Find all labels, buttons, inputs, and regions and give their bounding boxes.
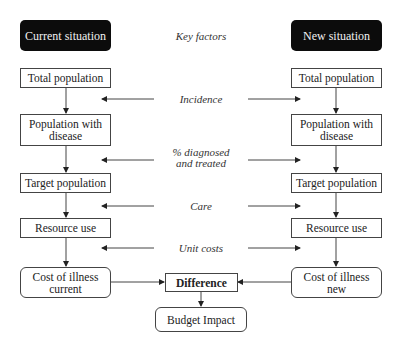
key-factor-care: Care [141, 201, 261, 212]
key-factor-unit-costs: Unit costs [141, 243, 261, 254]
box-label: Target population [296, 177, 377, 189]
budget-impact-box: Budget Impact [155, 307, 247, 332]
current-situation-header: Current situation [20, 20, 111, 51]
box-label-line: new [327, 283, 346, 295]
box-label: Target population [25, 177, 106, 189]
box-label: Resource use [35, 222, 96, 234]
new-total-population-box: Total population [291, 68, 382, 88]
box-label: Total population [28, 72, 104, 84]
difference-box: Difference [165, 273, 238, 292]
current-cost-of-illness-box: Cost of illness current [20, 267, 111, 298]
budget-impact-diagram: Current situation Key factors New situat… [0, 0, 400, 345]
new-situation-header: New situation [291, 20, 382, 51]
box-label: Resource use [306, 222, 367, 234]
box-label-line: disease [49, 130, 82, 142]
box-label-line: current [49, 283, 82, 295]
current-target-population-box: Target population [20, 173, 111, 193]
box-label-line: disease [320, 130, 353, 142]
key-factor-incidence: Incidence [141, 94, 261, 105]
key-factor-line: Unit costs [179, 242, 223, 254]
current-resource-use-box: Resource use [20, 218, 111, 238]
new-resource-use-box: Resource use [291, 218, 382, 238]
key-factors-heading: Key factors [141, 31, 261, 42]
new-population-with-disease-box: Population with disease [291, 114, 382, 146]
key-factor-line: and treated [176, 157, 226, 169]
key-factor-line: Care [190, 200, 212, 212]
new-cost-of-illness-box: Cost of illness new [291, 267, 382, 298]
current-population-with-disease-box: Population with disease [20, 114, 111, 146]
new-target-population-box: Target population [291, 173, 382, 193]
key-factor-line: Incidence [180, 93, 223, 105]
box-label-line: Cost of illness [304, 271, 370, 283]
box-label-line: Cost of illness [33, 271, 99, 283]
current-total-population-box: Total population [20, 68, 111, 88]
figure-caption-clipped [6, 341, 386, 345]
box-label: Total population [299, 72, 375, 84]
box-label-line: Population with [300, 118, 373, 130]
box-label-line: Population with [29, 118, 102, 130]
key-factor-diagnosed-treated: % diagnosed and treated [141, 147, 261, 169]
